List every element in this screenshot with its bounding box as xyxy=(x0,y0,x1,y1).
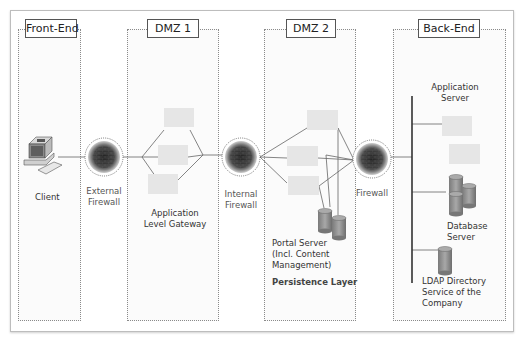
external-firewall-label: External Firewall xyxy=(84,186,124,208)
database-server-icon xyxy=(449,175,476,217)
database-server-label: Database Server xyxy=(447,221,488,243)
external-firewall-icon xyxy=(85,138,123,176)
portal-server-database-icon xyxy=(318,209,346,241)
external-firewall-label-line2: Firewall xyxy=(84,197,124,208)
application-server-label-line1: Application xyxy=(425,82,485,93)
internal-firewall-label-line1: Internal xyxy=(221,189,261,200)
portal-server-label-line2: (Incl. Content xyxy=(272,249,331,260)
internal-firewall-icon xyxy=(222,138,260,176)
database-server-label-line1: Database xyxy=(447,221,488,232)
client-computer-icon xyxy=(24,137,62,174)
ldap-directory-label-line2: Service of the xyxy=(422,287,486,298)
ldap-directory-label-line3: Company xyxy=(422,298,486,309)
persistence-layer-label: Persistence Layer xyxy=(272,277,357,288)
client-label: Client xyxy=(35,192,60,203)
internal-firewall-label-line2: Firewall xyxy=(221,200,261,211)
ldap-directory-label: LDAP Directory Service of the Company xyxy=(422,276,486,309)
ldap-directory-icon xyxy=(438,247,452,276)
portal-server-label-line1: Portal Server xyxy=(272,238,331,249)
external-firewall-label-line1: External xyxy=(84,186,124,197)
ldap-directory-label-line1: LDAP Directory xyxy=(422,276,486,287)
firewall-label: Firewall xyxy=(356,188,388,199)
firewall-icon xyxy=(353,140,391,178)
application-level-gateway-label-line1: Application xyxy=(140,208,210,219)
application-server-label: Application Server xyxy=(425,82,485,104)
database-server-label-line2: Server xyxy=(447,232,488,243)
server-boxes xyxy=(148,108,480,195)
portal-server-label-line3: Management) xyxy=(272,260,331,271)
application-level-gateway-label-line2: Level Gateway xyxy=(140,219,210,230)
portal-server-label: Portal Server (Incl. Content Management) xyxy=(272,238,331,271)
application-server-label-line2: Server xyxy=(425,93,485,104)
internal-firewall-label: Internal Firewall xyxy=(221,189,261,211)
application-level-gateway-label: Application Level Gateway xyxy=(140,208,210,230)
